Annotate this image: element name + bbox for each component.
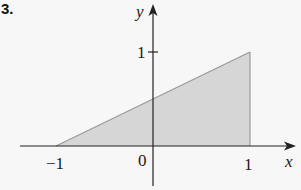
origin-label: 0 <box>138 151 147 170</box>
x-tick-label-neg1: −1 <box>46 154 64 173</box>
y-tick-label-1: 1 <box>137 43 146 62</box>
y-axis-label: y <box>134 2 144 21</box>
x-tick-label-1: 1 <box>244 155 253 174</box>
x-axis-label: x <box>284 152 293 171</box>
graph: y 1 −1 0 1 x <box>0 0 301 190</box>
